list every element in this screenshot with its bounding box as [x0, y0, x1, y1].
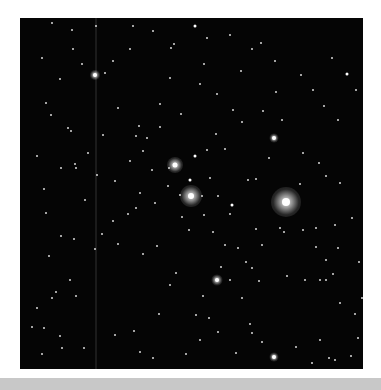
star: [241, 297, 243, 299]
star: [114, 334, 116, 336]
star: [51, 297, 53, 299]
star: [334, 224, 336, 226]
star: [337, 247, 339, 249]
star: [81, 63, 83, 65]
star: [212, 231, 214, 233]
star: [361, 297, 363, 299]
star: [334, 359, 336, 361]
star: [302, 152, 304, 154]
star: [59, 78, 61, 80]
star: [151, 169, 153, 171]
star: [315, 246, 317, 248]
star: [139, 192, 141, 194]
star: [339, 182, 341, 184]
star: [96, 174, 98, 176]
star: [67, 127, 69, 129]
star: [41, 353, 43, 355]
star: [135, 135, 137, 137]
star: [332, 273, 334, 275]
star: [173, 43, 175, 45]
star: [319, 279, 321, 281]
star: [304, 279, 306, 281]
star: [232, 109, 234, 111]
star: [251, 332, 253, 334]
star: [206, 149, 208, 151]
star: [241, 121, 243, 123]
star: [102, 134, 104, 136]
star: [195, 314, 197, 316]
star: [286, 275, 288, 277]
star: [75, 167, 77, 169]
bottom-gray-strip: [0, 378, 381, 390]
star: [60, 167, 62, 169]
star: [199, 83, 201, 85]
star: [261, 341, 263, 343]
star: [133, 330, 135, 332]
star: [245, 261, 247, 263]
star: [268, 157, 270, 159]
star: [112, 60, 114, 62]
star: [325, 279, 327, 281]
star: [146, 137, 148, 139]
star: [258, 280, 260, 282]
star: [355, 89, 357, 91]
star: [181, 216, 183, 218]
star: [129, 48, 131, 50]
star: [247, 179, 249, 181]
star: [135, 207, 137, 209]
star: [331, 57, 333, 59]
star: [357, 337, 359, 339]
bright-star: [272, 136, 276, 140]
star: [48, 255, 50, 257]
star: [55, 291, 57, 293]
star: [319, 339, 321, 341]
star: [318, 162, 320, 164]
star: [154, 202, 156, 204]
star: [114, 180, 116, 182]
star: [255, 228, 257, 230]
star: [315, 227, 317, 229]
star: [72, 48, 74, 50]
star: [71, 29, 73, 31]
star: [51, 22, 53, 24]
star: [59, 335, 61, 337]
star: [142, 150, 144, 152]
star: [350, 355, 352, 357]
star: [194, 155, 197, 158]
star: [75, 295, 77, 297]
star: [101, 233, 103, 235]
star: [117, 243, 119, 245]
star: [70, 130, 72, 132]
star: [69, 279, 71, 281]
star: [203, 214, 205, 216]
star: [325, 259, 327, 261]
star: [251, 48, 253, 50]
star: [117, 107, 119, 109]
star: [112, 220, 114, 222]
star: [175, 272, 177, 274]
star: [61, 347, 63, 349]
star: [36, 155, 38, 157]
star: [127, 213, 129, 215]
star: [235, 352, 237, 354]
star: [87, 152, 89, 154]
star: [185, 353, 187, 355]
star: [95, 25, 97, 27]
star: [312, 89, 314, 91]
star: [180, 113, 182, 115]
star: [358, 261, 360, 263]
star: [240, 70, 242, 72]
star: [299, 183, 301, 185]
star: [220, 266, 222, 268]
star: [83, 347, 85, 349]
star: [199, 339, 201, 341]
star: [170, 47, 172, 49]
bright-star: [173, 163, 178, 168]
star: [45, 212, 47, 214]
star: [295, 346, 297, 348]
star: [302, 229, 304, 231]
star: [138, 125, 140, 127]
star: [339, 302, 341, 304]
star: [224, 244, 226, 246]
star: [328, 357, 330, 359]
